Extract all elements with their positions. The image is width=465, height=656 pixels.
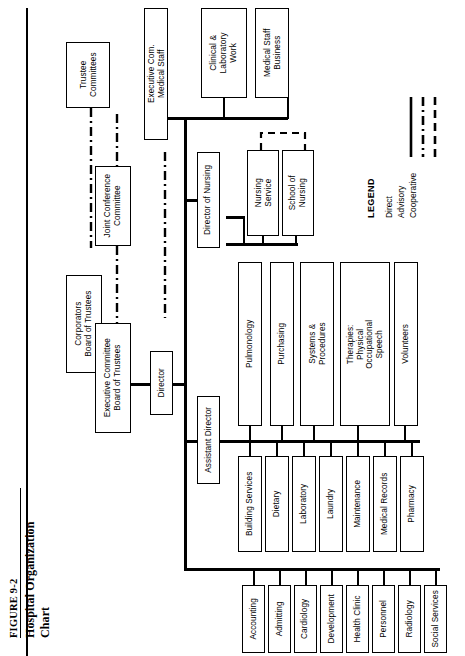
node-dept-bottom-3[interactable]: Development xyxy=(320,585,343,653)
node-label: Clinical &LaboratoryWork xyxy=(209,32,239,73)
node-medical-staff-business[interactable]: Medical StaffBusiness xyxy=(255,8,289,98)
node-dept-upper-1[interactable]: Purchasing xyxy=(270,262,294,426)
node-dept-upper-2[interactable]: Systems &Procedures xyxy=(300,262,334,426)
node-dept-lower-6[interactable]: Pharmacy xyxy=(400,456,424,552)
node-label: Executive CommitteeBoard of Trustees xyxy=(103,338,122,417)
bottom-stem-6 xyxy=(409,569,411,586)
node-label: Dietary xyxy=(272,491,282,518)
node-label: Pharmacy xyxy=(407,485,417,523)
bottom-group-bus xyxy=(184,568,440,571)
node-dept-bottom-7[interactable]: Social Services xyxy=(424,585,447,653)
node-trustee-committees[interactable]: TrusteeCommittees xyxy=(66,42,110,108)
node-label: Development xyxy=(327,594,337,643)
bottom-stem-5 xyxy=(383,569,385,586)
bottom-stem-0 xyxy=(253,569,255,586)
node-label: Social Services xyxy=(431,590,441,647)
dept-lower-stem-2 xyxy=(303,441,305,457)
dept-lower-stem-3 xyxy=(330,441,332,457)
node-joint-conference-committee[interactable]: Joint ConferenceCommittee xyxy=(95,166,131,246)
node-label: Executive Com.Medical Staff xyxy=(146,45,165,104)
bottom-stem-1 xyxy=(279,569,281,586)
figure-number: FIGURE 9-2 xyxy=(8,488,19,638)
node-label: Maintenance xyxy=(353,480,363,528)
advisory-joint-conference-link xyxy=(113,246,121,324)
nursing-bus-drop xyxy=(243,216,245,245)
node-label: Laundry xyxy=(326,489,336,519)
node-dept-lower-2[interactable]: Laboratory xyxy=(292,456,316,552)
caption-rule xyxy=(20,488,21,638)
figure-caption: FIGURE 9-2 Hospital Organization Chart xyxy=(8,488,54,638)
node-executive-com-medical-staff[interactable]: Executive Com.Medical Staff xyxy=(144,8,168,140)
node-label: NursingService xyxy=(253,179,272,208)
dept-upper-stem-2 xyxy=(313,424,315,442)
dept-upper-stem-1 xyxy=(281,424,283,442)
nursing-cooperative-link xyxy=(259,130,309,152)
node-clinical-laboratory-work[interactable]: Clinical &LaboratoryWork xyxy=(201,8,247,98)
node-label: Medical Records xyxy=(380,473,390,535)
exec-com-to-trunk xyxy=(166,117,186,120)
medical-staff-children-bus xyxy=(184,117,288,120)
dept-upper-stem-0 xyxy=(249,424,251,442)
node-dept-lower-1[interactable]: Dietary xyxy=(265,456,289,552)
node-dept-lower-0[interactable]: Building Services xyxy=(238,456,262,552)
legend-title: LEGEND xyxy=(366,178,376,218)
node-dept-bottom-4[interactable]: Health Clinic xyxy=(346,585,369,653)
node-dept-bottom-1[interactable]: Admitting xyxy=(268,585,291,653)
node-label: TrusteeCommittees xyxy=(78,53,97,98)
node-dept-lower-3[interactable]: Laundry xyxy=(319,456,343,552)
director-trunk-line xyxy=(184,118,187,570)
dept-lower-stem-6 xyxy=(411,441,413,457)
bottom-stem-7 xyxy=(435,569,437,586)
node-dept-bottom-6[interactable]: Radiology xyxy=(398,585,421,653)
node-label: Health Clinic xyxy=(353,595,363,642)
node-executive-committee-board-of-trustees[interactable]: Executive CommitteeBoard of Trustees xyxy=(95,323,131,433)
dept-upper-stem-3 xyxy=(357,424,359,442)
node-label: School ofNursing xyxy=(288,175,307,210)
node-label: Admitting xyxy=(275,601,285,636)
node-label: Cardiology xyxy=(301,599,311,639)
node-dept-upper-3[interactable]: Therapies:PhysicalOccupationalSpeech xyxy=(340,262,390,426)
node-label: Volunteers xyxy=(401,324,411,364)
node-dept-bottom-0[interactable]: Accounting xyxy=(242,585,265,653)
node-dept-bottom-5[interactable]: Personnel xyxy=(372,585,395,653)
figure-title: Hospital Organization Chart xyxy=(23,488,53,638)
node-dept-upper-0[interactable]: Pulmonology xyxy=(238,262,262,426)
node-label: Assistant Director xyxy=(204,407,214,473)
node-label: Personnel xyxy=(379,600,389,638)
node-director[interactable]: Director xyxy=(150,351,173,415)
legend: LEGEND Direct Advisory Cooperative xyxy=(352,96,462,261)
node-school-of-nursing[interactable]: School ofNursing xyxy=(282,150,314,236)
clinical-lab-stem xyxy=(223,97,225,119)
departments-main-bus xyxy=(224,440,420,443)
node-dept-lower-5[interactable]: Medical Records xyxy=(373,456,397,552)
legend-sample-direct xyxy=(406,96,416,158)
legend-item-advisory: Advisory xyxy=(396,186,406,218)
legend-item-cooperative: Cooperative xyxy=(408,173,418,218)
bottom-stem-2 xyxy=(305,569,307,586)
director-of-nursing-right-stem xyxy=(226,216,244,219)
node-director-of-nursing[interactable]: Director of Nursing xyxy=(197,152,220,248)
dept-lower-stem-5 xyxy=(384,441,386,457)
node-dept-lower-4[interactable]: Maintenance xyxy=(346,456,370,552)
node-dept-bottom-2[interactable]: Cardiology xyxy=(294,585,317,653)
node-nursing-service[interactable]: NursingService xyxy=(247,150,279,236)
advisory-trustee-committees-link xyxy=(87,108,95,248)
legend-sample-advisory xyxy=(418,96,428,158)
node-label: Systems &Procedures xyxy=(307,323,326,366)
node-label: Purchasing xyxy=(277,323,287,365)
node-label: Accounting xyxy=(249,598,259,640)
node-label: CorporatorsBoard of Trustees xyxy=(74,291,93,357)
dept-lower-stem-1 xyxy=(276,441,278,457)
node-label: Pulmonology xyxy=(245,320,255,368)
assistant-director-to-trunk xyxy=(184,440,198,443)
dept-lower-stem-4 xyxy=(357,441,359,457)
node-assistant-director[interactable]: Assistant Director xyxy=(197,396,220,484)
legend-sample-cooperative xyxy=(430,96,440,158)
node-label: Therapies:PhysicalOccupationalSpeech xyxy=(346,320,385,369)
organization-chart-figure: FIGURE 9-2 Hospital Organization Chart xyxy=(0,0,465,656)
dept-upper-stem-4 xyxy=(404,424,406,442)
node-label: Joint ConferenceCommittee xyxy=(103,174,122,238)
node-dept-upper-4[interactable]: Volunteers xyxy=(394,262,418,426)
node-label: Radiology xyxy=(405,600,415,637)
node-label: Director of Nursing xyxy=(204,165,214,235)
